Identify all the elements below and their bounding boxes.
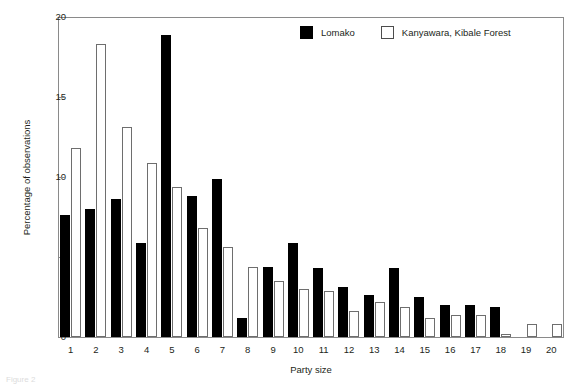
y-axis-tick-mark (59, 177, 65, 178)
bar (248, 267, 258, 337)
bar (414, 297, 424, 337)
x-axis-tick-label: 16 (438, 344, 462, 355)
bar (451, 315, 461, 337)
bar (223, 247, 233, 337)
y-axis-title: Percentage of observations (21, 68, 32, 288)
open-square-swatch (381, 26, 394, 39)
figure-caption: Figure 2 (6, 375, 35, 384)
x-axis-tick-label: 19 (514, 344, 538, 355)
x-axis-title: Party size (58, 364, 564, 375)
bar (212, 179, 222, 337)
bar (122, 127, 132, 337)
bar (161, 35, 171, 337)
x-axis-tick-label: 2 (84, 344, 108, 355)
bar (400, 307, 410, 337)
bar (85, 209, 95, 337)
bar (136, 243, 146, 337)
bar (96, 44, 106, 337)
x-axis-tick-label: 18 (489, 344, 513, 355)
plot-area: 05101520 1234567891011121314151617181920… (0, 0, 581, 392)
x-axis-line (58, 337, 564, 338)
x-axis-tick-label: 14 (388, 344, 412, 355)
y-axis-tick: 15 (0, 92, 66, 102)
bar (490, 307, 500, 337)
y-axis-tick-label: 20 (40, 12, 66, 22)
bar (198, 228, 208, 337)
bar (147, 163, 157, 337)
y-axis-tick-mark (59, 97, 65, 98)
bar (552, 324, 562, 337)
plot-frame-top (58, 17, 564, 18)
bar (389, 268, 399, 337)
x-axis-tick-label: 20 (539, 344, 563, 355)
x-axis-tick-label: 3 (109, 344, 133, 355)
x-axis-tick-label: 15 (413, 344, 437, 355)
bar (172, 187, 182, 337)
bar (375, 302, 385, 337)
bar (338, 287, 348, 337)
x-axis-tick-label: 1 (59, 344, 83, 355)
x-axis-tick-label: 13 (362, 344, 386, 355)
x-axis-tick-label: 10 (286, 344, 310, 355)
bar (263, 267, 273, 337)
y-axis-tick: 20 (0, 12, 66, 22)
x-axis-tick-label: 4 (135, 344, 159, 355)
bar (288, 243, 298, 337)
legend-item: Lomako (300, 26, 355, 39)
bar (111, 199, 121, 337)
x-axis-tick-label: 12 (337, 344, 361, 355)
bar (349, 311, 359, 337)
figure-bar-chart: 05101520 1234567891011121314151617181920… (0, 0, 581, 392)
chart-legend: LomakoKanyawara, Kibale Forest (300, 24, 537, 40)
x-axis-tick-label: 17 (463, 344, 487, 355)
bar (465, 305, 475, 337)
legend-item-label: Kanyawara, Kibale Forest (402, 27, 511, 38)
bar (274, 281, 284, 337)
bar (476, 315, 486, 337)
bar (187, 196, 197, 337)
x-axis-tick-label: 5 (160, 344, 184, 355)
bar (501, 334, 511, 337)
bar (313, 268, 323, 337)
bar (324, 291, 334, 337)
x-axis-tick-label: 6 (185, 344, 209, 355)
x-axis-tick-label: 7 (210, 344, 234, 355)
x-axis-tick-label: 8 (236, 344, 260, 355)
x-axis-tick-label: 11 (312, 344, 336, 355)
bar (440, 305, 450, 337)
y-axis-tick: 10 (0, 172, 66, 182)
plot-frame-right (563, 17, 564, 337)
y-axis-tick: 0 (0, 332, 66, 342)
bar (527, 324, 537, 337)
bar (364, 295, 374, 337)
legend-item: Kanyawara, Kibale Forest (381, 26, 511, 39)
y-axis-tick: 5 (0, 252, 66, 262)
filled-square-swatch (300, 26, 313, 39)
bar (71, 148, 81, 337)
bar (425, 318, 435, 337)
bar (299, 289, 309, 337)
x-axis-tick-label: 9 (261, 344, 285, 355)
bar (60, 215, 70, 337)
legend-item-label: Lomako (321, 27, 355, 38)
bar (237, 318, 247, 337)
